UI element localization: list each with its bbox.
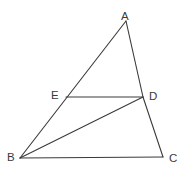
figure-canvas	[0, 0, 185, 172]
vertex-label-c: C	[169, 152, 177, 164]
segment-bd	[20, 97, 143, 158]
geometry-figure: A B C D E	[0, 0, 185, 172]
vertex-label-d: D	[149, 90, 157, 102]
vertex-label-e: E	[51, 89, 59, 101]
segment-ab	[20, 21, 126, 158]
segment-ac	[126, 21, 163, 157]
segment-bc	[20, 157, 163, 158]
vertex-label-a: A	[121, 10, 129, 22]
vertex-label-b: B	[7, 151, 15, 163]
